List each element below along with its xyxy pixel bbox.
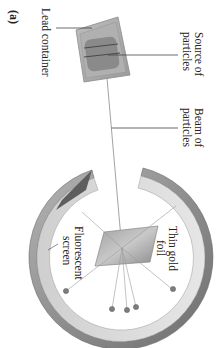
foil-label-line2: foil bbox=[155, 240, 167, 256]
panel-label: (a) bbox=[8, 10, 20, 24]
particle-beam bbox=[107, 78, 122, 250]
screen-label-line1: Fluorescent bbox=[73, 226, 85, 280]
screen-label-line2: screen bbox=[61, 236, 73, 265]
source-label-line1: Source of bbox=[193, 32, 205, 76]
beam-label-line1: Beam of bbox=[193, 108, 205, 147]
lead-container-shape bbox=[76, 17, 130, 82]
rutherford-diagram: (a) Lead container Source of particles B… bbox=[0, 0, 219, 348]
source-label-line2: particles bbox=[181, 32, 193, 71]
foil-label-line1: Thin gold bbox=[167, 226, 179, 271]
scintillation-spots bbox=[63, 286, 175, 312]
beam-label-line2: particles bbox=[181, 108, 193, 147]
lead-container-label: Lead container bbox=[40, 8, 52, 77]
